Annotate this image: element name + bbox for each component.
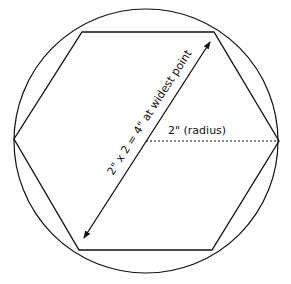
- radius-label: 2" (radius): [168, 124, 226, 137]
- diameter-arrow: [84, 42, 210, 238]
- diameter-label: 2" x 2 = 4" at widest point: [105, 47, 195, 178]
- hexagon-circle-diagram: 2" x 2 = 4" at widest point 2" (radius): [0, 0, 291, 284]
